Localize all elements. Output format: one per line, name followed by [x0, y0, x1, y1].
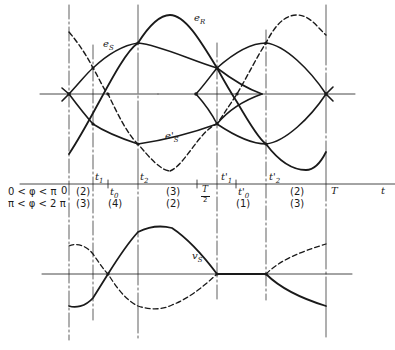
condition-row-1: 0 < φ < π [8, 186, 56, 197]
tick-zero: 0 [61, 185, 67, 196]
e-R-dashed-curve [69, 32, 170, 171]
region-r-mid-1: (1) [236, 198, 250, 209]
e-S-prime-curve [62, 94, 262, 144]
waveform-diagram [0, 0, 395, 350]
tick-half-period-den: 2 [203, 196, 207, 204]
region-r-mid-4: (4) [108, 198, 122, 209]
tick-t2-prime: t'2 [269, 171, 280, 185]
region-r1-b: (3) [166, 186, 180, 197]
region-r1-c: (2) [290, 186, 304, 197]
v-S-curve [69, 226, 217, 307]
region-r2-c: (3) [290, 198, 304, 209]
time-axis-label: t [381, 185, 385, 196]
tick-t1-prime: t'1 [221, 171, 232, 185]
v-S-label: vS [192, 250, 202, 264]
e-S-label: eS [103, 38, 114, 52]
e-S-prime-label: e'S [165, 130, 178, 144]
region-r2-a: (3) [76, 198, 90, 209]
tick-half-period-num: T [202, 184, 208, 194]
tick-t2: t2 [140, 171, 149, 185]
region-r1-a: (2) [76, 186, 90, 197]
tick-t1: t1 [95, 171, 104, 185]
condition-row-2: π < φ < 2 π [8, 198, 66, 209]
e-R-label: eR [194, 12, 205, 26]
tick-period: T [331, 185, 338, 196]
region-r2-b: (2) [166, 198, 180, 209]
